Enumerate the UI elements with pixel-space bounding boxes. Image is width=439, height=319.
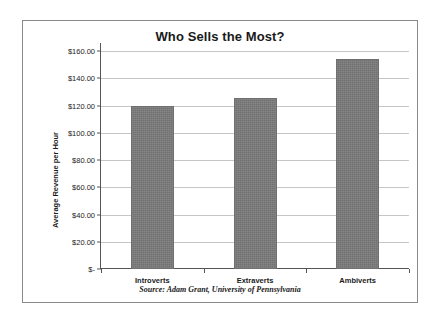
- y-tick-mark: [97, 132, 101, 133]
- y-tick-label: $-: [88, 265, 95, 274]
- y-tick-mark: [97, 105, 101, 106]
- bar-introverts: [131, 106, 174, 270]
- x-tick-label: Introverts: [135, 276, 170, 285]
- bar-ambiverts: [336, 59, 379, 270]
- y-tick-mark: [97, 214, 101, 215]
- x-tick-mark: [101, 269, 102, 273]
- y-tick-mark: [97, 51, 101, 52]
- y-tick-label: $60.00: [72, 183, 95, 192]
- y-tick-label: $140.00: [68, 74, 95, 83]
- x-tick-label: Extraverts: [237, 276, 274, 285]
- y-tick-label: $40.00: [72, 210, 95, 219]
- y-axis-title: Average Revenue per Hour: [49, 71, 63, 289]
- x-tick-mark: [306, 269, 307, 273]
- bar-extraverts: [234, 98, 277, 269]
- x-tick-label: Ambiverts: [339, 276, 376, 285]
- y-tick-label: $20.00: [72, 237, 95, 246]
- chart-title: Who Sells the Most?: [23, 29, 417, 44]
- y-tick-label: $160.00: [68, 47, 95, 56]
- y-tick-mark: [97, 78, 101, 79]
- chart-container: Who Sells the Most? Average Revenue per …: [22, 20, 418, 303]
- y-tick-mark: [97, 160, 101, 161]
- y-tick-label: $120.00: [68, 101, 95, 110]
- y-tick-label: $80.00: [72, 156, 95, 165]
- y-tick-label: $100.00: [68, 128, 95, 137]
- gridline: [101, 51, 409, 52]
- x-tick-mark: [409, 269, 410, 273]
- source-note: Source: Adam Grant, University of Pennsy…: [23, 285, 417, 294]
- y-tick-mark: [97, 187, 101, 188]
- y-tick-mark: [97, 241, 101, 242]
- x-tick-mark: [204, 269, 205, 273]
- plot-area: $160.00$140.00$120.00$100.00$80.00$60.00…: [101, 51, 409, 269]
